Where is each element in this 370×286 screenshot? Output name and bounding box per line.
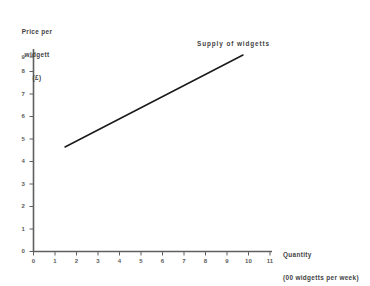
y-tick-label-0: 0	[15, 248, 25, 254]
x-axis-title-units: (00 widgetts per week)	[283, 274, 369, 282]
y-tick-label-2: 2	[15, 203, 25, 209]
x-tick-label-8: 8	[201, 258, 211, 264]
y-tick-label-9: 9	[15, 54, 25, 60]
x-tick-label-3: 3	[93, 258, 103, 264]
x-tick-label-10: 10	[244, 258, 254, 264]
x-tick-label-5: 5	[136, 258, 146, 264]
x-axis-title-line1: Quantity	[283, 251, 369, 259]
y-tick-label-5: 5	[15, 136, 25, 142]
x-axis-title: Quantity (00 widgetts per week)	[283, 236, 369, 286]
supply-curve-annotation: Supply of widgetts	[197, 40, 270, 47]
y-tick-label-7: 7	[15, 91, 25, 97]
x-tick-label-7: 7	[179, 258, 189, 264]
supply-curve-line	[65, 55, 243, 147]
x-tick-label-1: 1	[50, 258, 60, 264]
x-tick-label-9: 9	[222, 258, 232, 264]
x-tick-label-4: 4	[115, 258, 125, 264]
y-axis-title-line1: Price per	[10, 28, 64, 36]
y-tick-label-1: 1	[15, 226, 25, 232]
y-tick-label-3: 3	[15, 181, 25, 187]
x-tick-label-6: 6	[158, 258, 168, 264]
x-tick-label-2: 2	[72, 258, 82, 264]
y-tick-label-6: 6	[15, 113, 25, 119]
x-tick-label-0: 0	[29, 258, 39, 264]
y-axis-title-units: (£)	[10, 74, 64, 82]
y-tick-label-4: 4	[15, 158, 25, 164]
y-tick-label-8: 8	[15, 68, 25, 74]
x-tick-label-11: 11	[265, 258, 275, 264]
